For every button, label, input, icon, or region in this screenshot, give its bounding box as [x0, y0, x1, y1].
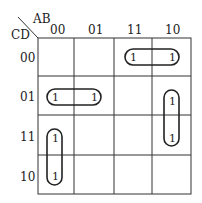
cell-value: 1 — [52, 92, 59, 103]
cell-value: 1 — [169, 133, 176, 144]
cell-value: 1 — [52, 171, 59, 182]
row-var-label: CD — [11, 29, 30, 41]
row-label: 01 — [20, 91, 35, 103]
col-label: 11 — [127, 24, 142, 36]
col-label: 01 — [88, 24, 103, 36]
row-label: 00 — [20, 52, 35, 64]
cell-value: 1 — [130, 52, 137, 63]
cell-value: 1 — [169, 96, 176, 107]
cell-value: 1 — [169, 52, 176, 63]
col-label: 00 — [50, 24, 65, 36]
cell-value: 1 — [52, 133, 59, 144]
row-label: 10 — [20, 171, 35, 183]
col-var-label: AB — [33, 13, 50, 25]
row-label: 11 — [20, 131, 35, 143]
cell-value: 1 — [91, 92, 98, 103]
col-label: 10 — [165, 24, 180, 36]
